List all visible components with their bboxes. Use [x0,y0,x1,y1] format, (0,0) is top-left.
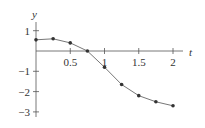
data-point [86,49,90,53]
data-point [120,83,124,87]
line-chart: 0.511.521−1−2−3 y t [0,0,205,128]
data-point [137,94,141,98]
x-tick-label: 0.5 [63,56,77,68]
data-point [171,104,175,108]
axes: 0.511.521−1−2−3 [18,22,183,118]
x-tick-label: 1.5 [132,56,146,68]
y-tick-label: −2 [18,86,30,98]
data-point [51,37,55,41]
y-tick-label: 1 [25,25,31,37]
x-axis-label: t [189,46,193,58]
data-point [103,65,107,69]
x-tick-label: 2 [170,56,176,68]
y-tick-label: −3 [18,106,30,118]
y-tick-label: −1 [18,65,30,77]
data-point [154,100,158,104]
data-point [68,41,72,45]
plot-area [34,37,175,108]
y-axis-label: y [31,8,37,20]
data-point [34,38,38,42]
